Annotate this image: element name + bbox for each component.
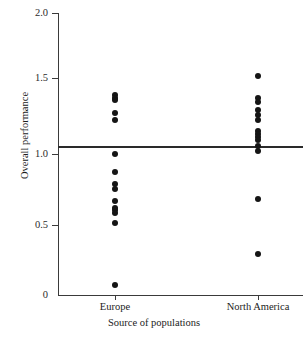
y-axis-title: Overall performance: [19, 56, 30, 216]
data-point: [112, 151, 118, 157]
y-tick-label-0: 0: [14, 290, 48, 301]
data-point: [112, 110, 118, 116]
data-point: [255, 99, 261, 105]
scatter-plot-figure: 2.0 1.5 1.0 0.5 0 Europe North America S…: [0, 0, 308, 338]
x-axis-line: [58, 295, 303, 296]
data-point: [112, 169, 118, 175]
x-tick-label-north-america: North America: [205, 301, 308, 312]
y-tick-1: [52, 154, 58, 155]
data-point: [255, 117, 261, 123]
y-tick-label-2: 2.0: [14, 8, 48, 19]
y-axis-line: [58, 13, 59, 296]
data-point: [255, 73, 261, 79]
y-tick-1_5: [52, 78, 58, 79]
y-tick-label-0_5: 0.5: [14, 220, 48, 231]
data-point: [112, 282, 118, 288]
x-tick-europe: [115, 295, 116, 300]
data-point: [112, 198, 118, 204]
plot-area: 2.0 1.5 1.0 0.5 0 Europe North America S…: [0, 0, 308, 338]
data-point: [255, 196, 261, 202]
data-point: [255, 251, 261, 257]
data-point: [112, 117, 118, 123]
data-point: [255, 137, 261, 143]
data-point: [112, 210, 118, 216]
y-tick-0_5: [52, 225, 58, 226]
x-axis-title: Source of populations: [0, 317, 308, 328]
x-tick-north-america: [258, 295, 259, 300]
data-point: [112, 97, 118, 103]
y-tick-2: [52, 13, 58, 14]
data-point: [255, 148, 261, 154]
data-point: [112, 186, 118, 192]
reference-line: [58, 146, 303, 148]
data-point: [112, 220, 118, 226]
x-tick-label-europe: Europe: [80, 301, 150, 312]
